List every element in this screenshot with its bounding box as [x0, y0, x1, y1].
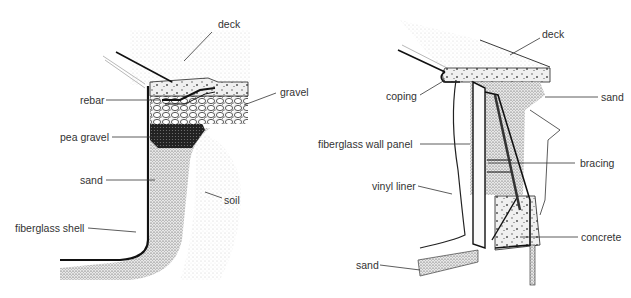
label-deck-left: deck: [218, 18, 240, 30]
label-bracing: bracing: [580, 157, 614, 169]
label-soil: soil: [224, 194, 240, 206]
label-sand-bottom: sand: [356, 259, 379, 271]
right-cross-section: [380, 20, 598, 285]
diagram-canvas: [0, 0, 631, 298]
label-concrete: concrete: [581, 231, 621, 243]
label-pea-gravel: pea gravel: [60, 131, 109, 143]
label-sand-left: sand: [80, 174, 103, 186]
left-cross-section: [60, 30, 276, 280]
label-deck-right: deck: [542, 28, 564, 40]
label-vinyl-liner: vinyl liner: [372, 180, 416, 192]
label-gravel: gravel: [280, 86, 309, 98]
label-fiberglass-shell: fiberglass shell: [15, 222, 84, 234]
label-fiberglass-wall-panel: fiberglass wall panel: [318, 138, 413, 150]
label-sand-top: sand: [601, 91, 624, 103]
label-coping: coping: [386, 90, 417, 102]
label-rebar: rebar: [80, 94, 105, 106]
